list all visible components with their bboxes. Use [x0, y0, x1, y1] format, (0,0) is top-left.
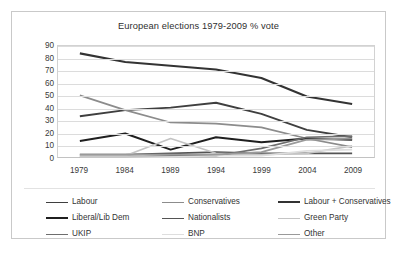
- legend-item-liberal-lib-dem[interactable]: Liberal/Lib Dem: [46, 210, 129, 226]
- legend-label: Nationalists: [188, 214, 230, 222]
- y-axis-tick-label: 90: [14, 41, 54, 50]
- legend-line-swatch: [278, 234, 300, 235]
- x-axis-tick-label: 2009: [344, 166, 362, 175]
- legend-item-nationalists[interactable]: Nationalists: [162, 210, 230, 226]
- legend-label: UKIP: [72, 230, 91, 238]
- y-axis: 9080706050403020100: [14, 45, 54, 158]
- legend-item-conservatives[interactable]: Conservatives: [162, 194, 240, 210]
- legend-label: Conservatives: [188, 198, 240, 206]
- legend-line-swatch: [162, 218, 184, 219]
- legend-separator: [24, 188, 375, 189]
- legend-item-green-party[interactable]: Green Party: [278, 210, 348, 226]
- legend-item-labour-conservatives[interactable]: Labour + Conservatives: [278, 194, 391, 210]
- legend-item-ukip[interactable]: UKIP: [46, 226, 91, 242]
- y-axis-tick-label: 80: [14, 53, 54, 62]
- legend-line-swatch: [278, 218, 300, 219]
- legend-line-swatch: [46, 202, 68, 203]
- legend-row: UKIPBNPOther: [46, 226, 386, 242]
- legend-line-swatch: [46, 234, 68, 235]
- chart-title: European elections 1979-2009 % vote: [12, 21, 385, 31]
- legend-item-other[interactable]: Other: [278, 226, 324, 242]
- gridline: [58, 134, 374, 135]
- series-lines: [58, 46, 374, 157]
- gridline: [58, 46, 374, 47]
- y-axis-tick-label: 60: [14, 78, 54, 87]
- chart-legend: LabourConservativesLabour + Conservative…: [46, 194, 386, 244]
- plot-wrapper: 9080706050403020100 19791984198919941999…: [57, 45, 375, 158]
- legend-line-swatch: [162, 202, 184, 203]
- gridline: [58, 109, 374, 110]
- legend-line-swatch: [278, 201, 300, 203]
- legend-line-swatch: [46, 217, 68, 219]
- y-axis-tick-label: 10: [14, 141, 54, 150]
- legend-label: Liberal/Lib Dem: [72, 214, 129, 222]
- gridline: [58, 121, 374, 122]
- legend-item-bnp[interactable]: BNP: [162, 226, 205, 242]
- gridline: [58, 146, 374, 147]
- chart-frame: European elections 1979-2009 % vote 9080…: [11, 11, 386, 239]
- y-axis-tick-label: 20: [14, 128, 54, 137]
- y-axis-tick-label: 70: [14, 66, 54, 75]
- legend-label: Labour + Conservatives: [304, 198, 391, 206]
- gridline: [58, 84, 374, 85]
- gridline: [58, 59, 374, 60]
- chart-page: European elections 1979-2009 % vote 9080…: [0, 0, 400, 253]
- legend-label: Green Party: [304, 214, 348, 222]
- y-axis-tick-label: 50: [14, 91, 54, 100]
- y-axis-tick-label: 40: [14, 103, 54, 112]
- x-axis-tick-label: 1979: [70, 166, 88, 175]
- x-axis-tick-label: 2004: [298, 166, 316, 175]
- legend-item-labour[interactable]: Labour: [46, 194, 98, 210]
- legend-label: Labour: [72, 198, 98, 206]
- y-axis-tick-label: 0: [14, 154, 54, 163]
- legend-row: LabourConservativesLabour + Conservative…: [46, 194, 386, 210]
- legend-row: Liberal/Lib DemNationalistsGreen Party: [46, 210, 386, 226]
- legend-label: BNP: [188, 230, 205, 238]
- gridline: [58, 96, 374, 97]
- x-axis: 1979198419891994199920042009: [57, 158, 375, 180]
- x-axis-tick-label: 1984: [116, 166, 134, 175]
- x-axis-tick-label: 1989: [161, 166, 179, 175]
- y-axis-tick-label: 30: [14, 116, 54, 125]
- legend-line-swatch: [162, 234, 184, 235]
- plot-area: [57, 45, 375, 158]
- gridline: [58, 71, 374, 72]
- x-axis-tick-label: 1994: [207, 166, 225, 175]
- legend-label: Other: [304, 230, 324, 238]
- x-axis-tick-label: 1999: [253, 166, 271, 175]
